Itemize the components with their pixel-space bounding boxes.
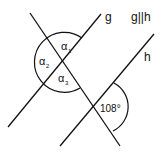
label-parallel: g||h xyxy=(131,10,151,24)
svg-text:α: α xyxy=(39,55,46,67)
svg-text:α: α xyxy=(58,72,65,84)
angle-alpha1: α 1 xyxy=(61,40,72,54)
angle-108-label: 108° xyxy=(100,103,121,114)
svg-text:1: 1 xyxy=(68,48,72,54)
transversal xyxy=(30,13,120,146)
svg-text:3: 3 xyxy=(65,80,69,86)
label-g: g xyxy=(105,10,112,24)
svg-text:2: 2 xyxy=(46,63,50,69)
line-h xyxy=(60,34,154,146)
angle-diagram: g g||h h α 1 α 2 α 3 108° xyxy=(0,0,162,155)
svg-text:α: α xyxy=(61,40,68,52)
line-g xyxy=(8,14,101,127)
angle-alpha2: α 2 xyxy=(39,55,50,69)
angle-alpha3: α 3 xyxy=(58,72,69,86)
label-h: h xyxy=(144,50,151,64)
